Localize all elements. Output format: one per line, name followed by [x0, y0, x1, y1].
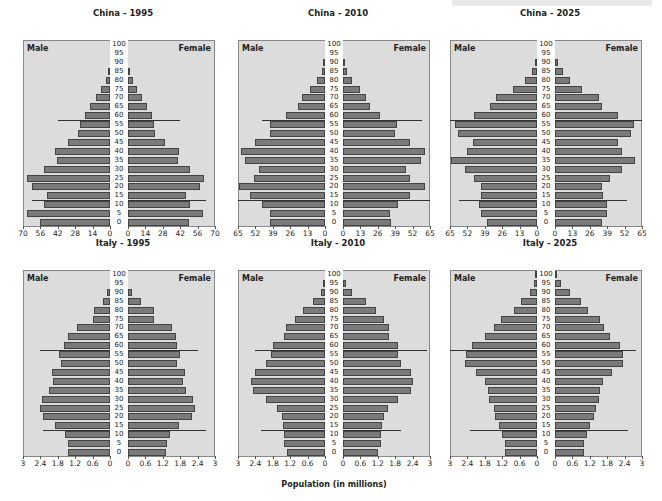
male-bar — [68, 139, 110, 146]
age-label: 50 — [537, 359, 555, 368]
x-tick-label: 2.4 — [192, 459, 204, 468]
female-bar — [128, 396, 193, 403]
female-bar — [343, 139, 410, 146]
x-tick-mark — [590, 456, 591, 459]
x-tick-label: 0.6 — [354, 459, 366, 468]
ref-line-female — [343, 120, 422, 121]
x-tick-label: 0 — [553, 229, 558, 238]
age-label: 25 — [110, 174, 128, 183]
x-tick-mark — [360, 226, 361, 229]
age-label: 85 — [110, 67, 128, 76]
x-tick-mark — [58, 456, 59, 459]
x-tick-mark — [360, 456, 361, 459]
x-tick-label: 3 — [428, 459, 433, 468]
age-label: 50 — [325, 129, 343, 138]
chart-title: China - 2025 — [450, 8, 650, 18]
x-tick-label: 0 — [341, 459, 346, 468]
x-tick-mark — [378, 456, 379, 459]
male-label: Male — [27, 274, 49, 283]
x-tick-label: 52 — [251, 229, 261, 238]
ref-line-female — [128, 430, 206, 431]
female-bar — [343, 289, 352, 296]
x-tick-mark — [502, 226, 503, 229]
x-tick-label: 0 — [323, 229, 328, 238]
x-tick-mark — [215, 226, 216, 229]
male-bar — [496, 94, 537, 101]
female-bar — [343, 77, 352, 84]
x-tick-mark — [590, 226, 591, 229]
male-bar — [494, 324, 538, 331]
x-tick-mark — [325, 456, 326, 459]
female-bar — [343, 342, 398, 349]
female-bar — [128, 360, 177, 367]
female-bar — [343, 405, 388, 412]
age-label: 45 — [110, 368, 128, 377]
x-tick-mark — [273, 226, 274, 229]
age-label: 65 — [110, 332, 128, 341]
x-tick-mark — [413, 456, 414, 459]
male-label: Male — [27, 44, 49, 53]
female-bar — [343, 94, 366, 101]
female-bar — [555, 94, 599, 101]
female-bar — [343, 68, 347, 75]
age-label: 20 — [537, 182, 555, 191]
female-bar — [128, 316, 154, 323]
x-tick-mark — [467, 226, 468, 229]
male-bar — [250, 192, 325, 199]
x-tick-label: 26 — [285, 229, 295, 238]
age-label: 0 — [325, 448, 343, 457]
age-label: 35 — [110, 156, 128, 165]
male-bar — [42, 396, 110, 403]
age-label: 65 — [537, 102, 555, 111]
age-label: 65 — [325, 102, 343, 111]
male-bar — [481, 192, 537, 199]
x-tick-mark — [23, 456, 24, 459]
age-label: 100 — [110, 40, 128, 49]
male-bar — [534, 280, 537, 287]
age-label: 90 — [325, 58, 343, 67]
x-tick-label: 3 — [21, 459, 26, 468]
x-tick-mark — [75, 456, 76, 459]
age-label: 65 — [537, 332, 555, 341]
age-label: 50 — [110, 129, 128, 138]
female-bar — [128, 94, 142, 101]
female-bar — [128, 333, 176, 340]
female-bar — [555, 413, 594, 420]
female-bar — [128, 130, 155, 137]
female-bar — [555, 166, 622, 173]
x-tick-mark — [198, 456, 199, 459]
female-bar — [128, 378, 183, 385]
x-tick-mark — [502, 456, 503, 459]
x-tick-label: 1.2 — [284, 459, 296, 468]
age-label: 35 — [325, 156, 343, 165]
age-label: 70 — [110, 93, 128, 102]
age-label: 95 — [537, 49, 555, 58]
x-tick-label: 28 — [158, 229, 168, 238]
male-bar — [494, 405, 538, 412]
male-bar — [303, 307, 325, 314]
male-bar — [68, 333, 110, 340]
male-bar — [282, 413, 326, 420]
age-label: 30 — [325, 395, 343, 404]
male-bar — [53, 378, 110, 385]
age-label: 95 — [325, 49, 343, 58]
female-bar — [128, 210, 203, 217]
age-label: 10 — [537, 200, 555, 209]
age-label: 100 — [325, 270, 343, 279]
age-label: 25 — [110, 404, 128, 413]
male-bar — [505, 440, 537, 447]
x-tick-label: 42 — [175, 229, 185, 238]
age-label: 5 — [110, 209, 128, 218]
x-tick-label: 1.2 — [584, 459, 596, 468]
x-tick-label: 2.4 — [461, 459, 473, 468]
female-bar — [555, 112, 618, 119]
female-bar — [343, 210, 390, 217]
male-bar — [501, 316, 537, 323]
x-tick-label: 2.4 — [34, 459, 46, 468]
age-label: 15 — [325, 421, 343, 430]
x-tick-label: 65 — [425, 229, 435, 238]
age-label: 95 — [110, 49, 128, 58]
male-bar — [505, 449, 537, 456]
female-bar — [555, 210, 607, 217]
x-tick-label: 0 — [126, 229, 131, 238]
